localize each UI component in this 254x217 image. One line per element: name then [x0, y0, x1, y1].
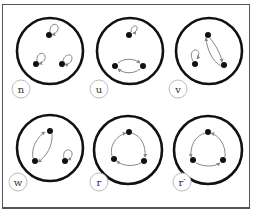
swap-arrow-icon: [210, 38, 222, 62]
outer-circle: [97, 18, 163, 84]
swap-arrow-icon: [118, 69, 140, 73]
panel-r: r: [90, 116, 162, 191]
panel-label: w: [14, 177, 23, 188]
panel-v: v: [169, 18, 242, 98]
loop-arrow-icon: [191, 50, 198, 61]
point-left: [32, 158, 38, 164]
point-right: [62, 158, 68, 164]
point-right: [140, 63, 146, 69]
swap-arrow-icon: [38, 134, 52, 162]
rotation-arrow-icon: [211, 133, 225, 157]
rotation-arrow-icon: [191, 133, 205, 157]
point-left: [190, 157, 196, 163]
panel-label: u: [96, 84, 103, 95]
outer-circle: [94, 116, 162, 184]
swap-arrow-icon: [33, 132, 45, 158]
point-left: [111, 156, 117, 162]
rotation-arrow-icon: [117, 161, 141, 165]
point-right: [141, 158, 147, 164]
point-right: [221, 62, 227, 68]
point-right: [59, 61, 65, 67]
loop-arrow-icon: [131, 26, 137, 33]
point-left: [112, 63, 118, 69]
panel-label: r: [97, 177, 102, 188]
point-right: [220, 157, 226, 163]
panel-r-prime: r′: [173, 116, 242, 191]
cycle-diagrams: n u v w: [0, 0, 254, 217]
swap-arrow-icon: [118, 59, 140, 63]
point-top: [126, 129, 132, 135]
panel-label: v: [174, 84, 181, 95]
point-left: [33, 61, 39, 67]
point-top: [205, 32, 211, 38]
point-top: [205, 129, 211, 135]
point-top: [47, 128, 53, 134]
panel-label: r′: [178, 177, 186, 188]
panel-w: w: [9, 115, 83, 191]
point-top: [46, 32, 52, 38]
rotation-arrow-icon: [196, 163, 220, 166]
point-left: [192, 61, 198, 67]
point-top: [126, 32, 132, 38]
panel-u: u: [90, 18, 163, 98]
rotation-arrow-icon: [132, 133, 145, 157]
panel-label: n: [18, 84, 25, 95]
rotation-arrow-icon: [111, 133, 126, 156]
panel-n: n: [12, 18, 83, 98]
